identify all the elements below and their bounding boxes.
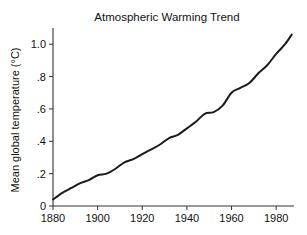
x-tick-label: 1900 (85, 212, 109, 224)
y-tick-label: .4 (37, 135, 46, 147)
y-tick-label: .6 (37, 103, 46, 115)
y-tick-label: 0 (40, 200, 46, 212)
y-axis-title: Mean global temperature (°C) (9, 47, 21, 192)
temperature-series-line (53, 34, 292, 199)
chart-figure: Atmospheric Warming Trend Mean global te… (0, 0, 307, 235)
x-tick-label: 1880 (41, 212, 65, 224)
y-tick-label: 1.0 (31, 38, 46, 50)
y-axis-ticks: 0.2.4.6.81.0 (31, 38, 53, 212)
y-tick-label: .8 (37, 71, 46, 83)
x-tick-label: 1980 (264, 212, 288, 224)
x-tick-label: 1920 (130, 212, 154, 224)
x-axis-ticks: 188019001920194019601980 (41, 206, 289, 224)
chart-title: Atmospheric Warming Trend (94, 11, 239, 23)
y-tick-label: .2 (37, 168, 46, 180)
warming-trend-chart: Atmospheric Warming Trend Mean global te… (0, 0, 307, 235)
x-tick-label: 1940 (175, 212, 199, 224)
x-tick-label: 1960 (219, 212, 243, 224)
